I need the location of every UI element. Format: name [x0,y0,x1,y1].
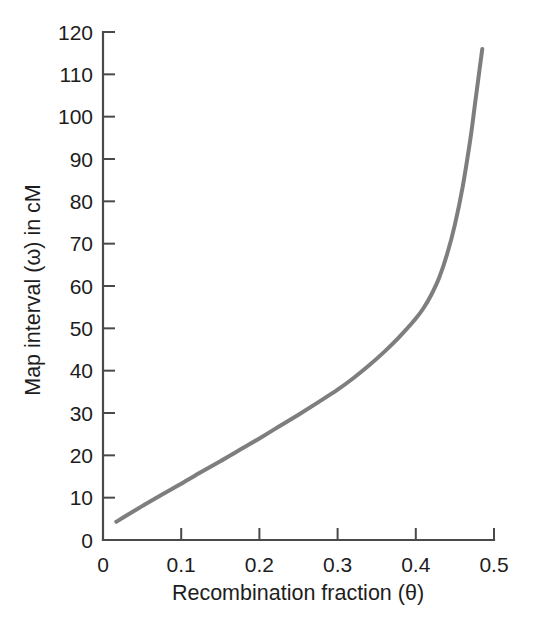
x-tick-label: 0 [97,553,109,576]
x-tick-label: 0.2 [245,553,274,576]
y-tick-label: 100 [58,105,93,128]
x-tick-label: 0.1 [167,553,196,576]
y-tick-label: 70 [70,232,93,255]
y-tick-label: 40 [70,359,93,382]
x-tick-label: 0.4 [401,553,431,576]
x-tick-label: 0.3 [323,553,352,576]
y-tick-label: 10 [70,486,93,509]
y-tick-label: 80 [70,190,93,213]
data-series-group [116,49,482,522]
data-curve-map-interval [116,49,482,522]
chart-svg: 0102030405060708090100110120 00.10.20.30… [0,0,533,625]
y-tick-label: 120 [58,21,93,44]
chart-figure: 0102030405060708090100110120 00.10.20.30… [0,0,533,625]
y-axis-tick-labels: 0102030405060708090100110120 [58,21,93,552]
x-axis-title: Recombination fraction (θ) [172,581,424,605]
x-tick-label: 0.5 [479,553,508,576]
x-axis-tick-labels: 00.10.20.30.40.5 [97,553,508,576]
y-tick-label: 90 [70,148,93,171]
y-tick-label: 30 [70,402,93,425]
y-axis-ticks [103,32,115,498]
x-axis-ticks [181,528,494,540]
y-tick-label: 0 [81,529,93,552]
y-axis-title: Map interval (ω) in cM [21,184,45,396]
y-tick-label: 110 [60,63,93,86]
y-tick-label: 50 [70,317,93,340]
y-tick-label: 60 [70,275,93,298]
y-tick-label: 20 [70,444,93,467]
